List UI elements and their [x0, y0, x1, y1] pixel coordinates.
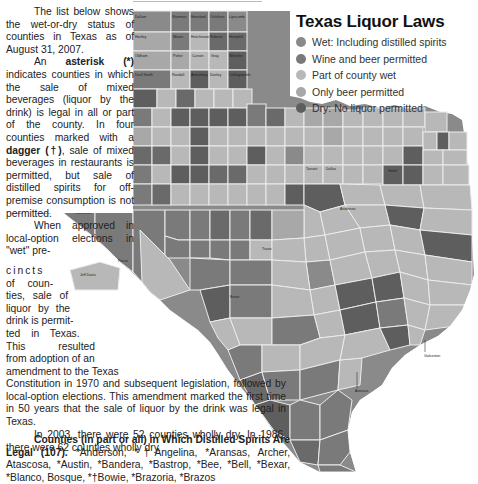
svg-text:Bexar: Bexar [230, 295, 240, 299]
beer-only-swatch-icon [296, 87, 306, 97]
intro-paragraph: The list below shows the wet-or-dry stat… [6, 6, 134, 56]
north-counties [304, 108, 469, 185]
legend-item-part-wet: Part of county wet [296, 67, 476, 84]
svg-text:Hartley: Hartley [135, 35, 147, 39]
dagger-term: dagger (†) [6, 145, 62, 156]
svg-text:Hutchinson: Hutchinson [191, 35, 209, 39]
legend-item-wet: Wet: Including distilled spirits [296, 34, 476, 51]
dry-swatch-icon [296, 103, 306, 113]
wet-swatch-icon [296, 37, 306, 47]
svg-text:Gray: Gray [211, 54, 219, 58]
svg-text:Randall: Randall [172, 73, 184, 77]
legend-item-wine-beer: Wine and beer permitted [296, 51, 476, 68]
svg-text:Moore: Moore [173, 35, 183, 39]
svg-text:Dallas: Dallas [326, 167, 336, 171]
svg-text:Carson: Carson [192, 54, 204, 58]
svg-text:Pecos: Pecos [118, 259, 128, 263]
svg-text:Roberts: Roberts [210, 35, 223, 39]
svg-text:Oldham: Oldham [135, 54, 148, 58]
legend: Texas Liquor Laws Wet: Including distill… [296, 12, 476, 117]
local-option-paragraph-start: When approved in local-option elections … [6, 220, 134, 258]
local-option-paragraph-wrap: cincts of coun- ties, sale of liquor by … [6, 265, 119, 378]
legend-item-beer-only: Only beer permitted [296, 84, 476, 101]
svg-text:Deaf Smith: Deaf Smith [135, 73, 153, 77]
svg-text:Hansford: Hansford [191, 15, 206, 19]
svg-text:Smith: Smith [388, 169, 397, 173]
county-list: Counties (in part or all) in Which Disti… [6, 434, 290, 484]
asterisk-paragraph: An asterisk (*) indicates counties in wh… [6, 56, 134, 220]
svg-text:Dallam: Dallam [135, 15, 146, 19]
svg-text:Armstrong: Armstrong [191, 73, 208, 77]
svg-text:Anderson: Anderson [340, 207, 355, 211]
legend-item-dry: Dry: No liquor permitted [296, 100, 476, 117]
asterisk-term: asterisk (*) [65, 56, 134, 67]
svg-text:Collingsworth: Collingsworth [229, 73, 251, 77]
svg-text:Lipscomb: Lipscomb [229, 15, 244, 19]
aransas-label: Aransas [355, 389, 368, 393]
svg-text:Wheeler: Wheeler [229, 54, 243, 58]
legend-title: Texas Liquor Laws [296, 12, 476, 32]
svg-text:Tarrant: Tarrant [306, 167, 317, 171]
svg-text:Sherman: Sherman [172, 15, 187, 19]
galveston-label: Galveston [424, 354, 440, 358]
svg-text:Potter: Potter [173, 54, 183, 58]
svg-text:Ochiltree: Ochiltree [210, 15, 224, 19]
svg-text:Donley: Donley [210, 73, 221, 77]
part-wet-swatch-icon [296, 70, 306, 80]
svg-text:Travis: Travis [262, 247, 272, 251]
svg-text:Hemphill: Hemphill [229, 35, 243, 39]
article-intro: The list below shows the wet-or-dry stat… [6, 6, 134, 258]
wine-beer-swatch-icon [296, 54, 306, 64]
central-east-counties [304, 184, 472, 338]
